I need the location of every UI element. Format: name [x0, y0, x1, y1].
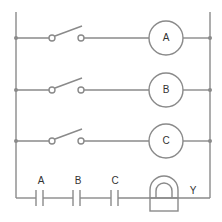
- switch-blade: [55, 129, 82, 139]
- switch-terminal: [78, 87, 84, 93]
- bottom-rung: A B C Y: [16, 175, 210, 211]
- switch-terminal: [49, 87, 55, 93]
- contact-b: [73, 190, 80, 206]
- junction-node: [208, 36, 212, 40]
- coil-label-c: C: [162, 135, 169, 146]
- switch-terminal: [49, 138, 55, 144]
- contact-c: [111, 190, 118, 206]
- output-label-y: Y: [190, 185, 197, 196]
- output-lamp-y: [150, 176, 178, 211]
- junction-node: [208, 88, 212, 92]
- coil-label-a: A: [163, 32, 170, 43]
- junction-node: [208, 139, 212, 143]
- switch-blade: [55, 78, 82, 88]
- coil-label-b: B: [163, 84, 170, 95]
- contact-label-b: B: [75, 175, 82, 186]
- contact-label-c: C: [111, 175, 118, 186]
- rung-a: A: [14, 21, 212, 55]
- contact-a: [36, 190, 43, 206]
- switch-terminal: [78, 138, 84, 144]
- contact-label-a: A: [38, 175, 45, 186]
- switch-terminal: [49, 35, 55, 41]
- rung-c: C: [14, 124, 212, 158]
- rung-b: B: [14, 73, 212, 107]
- switch-terminal: [78, 35, 84, 41]
- switch-blade: [55, 26, 82, 36]
- ladder-diagram: A B C A: [0, 0, 222, 222]
